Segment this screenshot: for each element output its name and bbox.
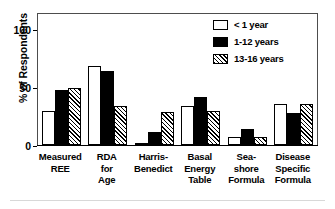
bar-group: [85, 14, 132, 145]
bar: [88, 66, 101, 145]
bar: [254, 137, 267, 145]
bar: [161, 112, 174, 145]
x-axis-label-line: shore: [223, 163, 270, 175]
bar-group: [38, 14, 85, 145]
x-axis-label-line: Basal: [177, 151, 224, 163]
bar: [300, 104, 313, 145]
legend-item: 13-16 years: [213, 51, 313, 66]
bar: [274, 104, 287, 145]
x-axis-label: Sea-shoreFormula: [223, 151, 270, 186]
x-axis-label-line: REE: [37, 163, 84, 175]
x-axis-label-line: Benedict: [130, 163, 177, 175]
y-tick-label-100: 100: [5, 25, 31, 36]
bar: [148, 132, 161, 145]
bar: [114, 106, 127, 145]
legend-swatch: [213, 20, 228, 30]
x-axis-label-line: Measured: [37, 151, 84, 163]
x-axis-label-line: Energy: [177, 163, 224, 175]
x-axis-label-line: for: [84, 163, 131, 175]
legend-item: < 1 year: [213, 17, 313, 32]
bar: [207, 111, 220, 145]
x-axis-label-line: Formula: [223, 174, 270, 186]
figure-bottom-rule: [10, 200, 325, 201]
x-axis-label-line: Table: [177, 174, 224, 186]
legend-swatch: [213, 54, 228, 64]
x-axis-label-line: RDA: [84, 151, 131, 163]
bar: [181, 106, 194, 145]
bar: [287, 113, 300, 145]
legend-label: < 1 year: [234, 19, 268, 30]
legend-label: 13-16 years: [234, 53, 284, 64]
x-axis-label: DiseaseSpecificFormula: [270, 151, 317, 186]
bar-chart-figure: % of Respondents 0 50 100 MeasuredREERDA…: [0, 0, 335, 209]
x-axis-label: MeasuredREE: [37, 151, 84, 174]
bar-group: [131, 14, 178, 145]
x-axis-label-line: Specific: [270, 163, 317, 175]
x-axis-baseline: [37, 145, 318, 146]
bar: [241, 129, 254, 145]
x-axis-label: RDAforAge: [84, 151, 131, 186]
x-axis-label-line: Age: [84, 174, 131, 186]
x-axis-label-line: Harris-: [130, 151, 177, 163]
x-axis-label: Harris-Benedict: [130, 151, 177, 174]
y-tick-label-50: 50: [5, 83, 31, 94]
legend-item: 1-12 years: [213, 34, 313, 49]
y-tick-label-0: 0: [5, 141, 31, 152]
legend-swatch: [213, 37, 228, 47]
x-axis-label: BasalEnergyTable: [177, 151, 224, 186]
bar: [68, 88, 81, 145]
x-axis-label-line: Disease: [270, 151, 317, 163]
y-axis-ticks: 0 50 100: [0, 0, 31, 209]
bar: [228, 137, 241, 145]
x-axis-label-line: Sea-: [223, 151, 270, 163]
bar: [42, 111, 55, 145]
legend-label: 1-12 years: [234, 36, 278, 47]
bar: [194, 97, 207, 145]
legend: < 1 year1-12 years13-16 years: [213, 17, 313, 68]
bar: [55, 90, 68, 145]
x-axis-label-line: Formula: [270, 174, 317, 186]
bar: [101, 71, 114, 145]
